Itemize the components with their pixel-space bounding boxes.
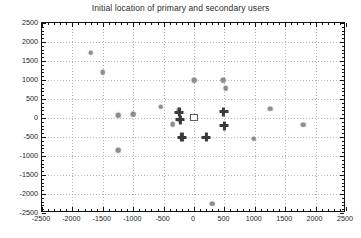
y-tick-label: 2500 <box>22 18 38 27</box>
data-point-secondary-user <box>301 123 306 128</box>
data-point-primary-user <box>177 133 186 142</box>
data-point-secondary-user <box>223 86 228 91</box>
data-point-secondary-user <box>251 136 256 141</box>
x-tick-mark <box>346 207 347 211</box>
y-tick-label: -1500 <box>20 170 38 179</box>
y-tick-label: 1000 <box>22 75 38 84</box>
data-point-spike <box>191 99 197 118</box>
x-tick-label: 2500 <box>337 214 353 223</box>
data-point-primary-user <box>176 115 185 124</box>
data-point-primary-user <box>220 121 229 130</box>
x-tick-label: 500 <box>217 214 229 223</box>
x-tick-mark <box>346 23 347 27</box>
x-tick-label: 2000 <box>307 214 323 223</box>
y-axis-tick-labels: -2500-2000-1500-1000-5000500100015002000… <box>0 22 38 212</box>
data-point-secondary-user <box>116 113 121 118</box>
data-point-primary-user <box>202 133 211 142</box>
data-point-secondary-user <box>158 104 163 109</box>
x-tick-label: 0 <box>191 214 195 223</box>
y-tick-label: 1500 <box>22 56 38 65</box>
y-tick-label: 0 <box>34 113 38 122</box>
y-tick-label: -1000 <box>20 151 38 160</box>
x-tick-label: -2500 <box>32 214 50 223</box>
series-layer <box>42 23 344 211</box>
data-point-secondary-user <box>170 122 175 127</box>
plot-area <box>41 22 345 212</box>
data-point-secondary-user <box>210 201 215 206</box>
data-point-secondary-user <box>131 112 136 117</box>
chart-title: Initial location of primary and secondar… <box>0 3 361 13</box>
figure-container: Initial location of primary and secondar… <box>0 0 361 238</box>
data-point-secondary-user <box>221 78 226 83</box>
data-point-secondary-user <box>116 148 121 153</box>
y-tick-label: 2000 <box>22 37 38 46</box>
x-tick-label: -500 <box>155 214 169 223</box>
data-point-primary-user <box>219 107 228 116</box>
x-tick-label: -1500 <box>93 214 111 223</box>
data-point-secondary-user <box>268 106 273 111</box>
y-tick-label: -500 <box>24 132 38 141</box>
data-point-secondary-user <box>101 70 106 75</box>
x-tick-label: -2000 <box>62 214 80 223</box>
x-tick-label: -1000 <box>123 214 141 223</box>
y-tick-label: -2000 <box>20 189 38 198</box>
data-point-secondary-user <box>192 78 197 83</box>
data-point-secondary-user <box>88 50 93 55</box>
x-tick-label: 1500 <box>276 214 292 223</box>
spike-base-marker <box>190 114 198 121</box>
x-tick-label: 1000 <box>246 214 262 223</box>
x-axis-tick-labels: -2500-2000-1500-1000-5000500100015002000… <box>41 214 345 228</box>
y-tick-label: 500 <box>26 94 38 103</box>
